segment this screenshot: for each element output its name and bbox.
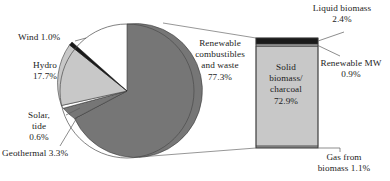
bar-segment-renewable-mw[interactable]	[256, 44, 318, 47]
renewable-energy-figure: Wind 1.0% Hydro 17.7% Solar, tide 0.6% G…	[0, 0, 390, 181]
label-gas-from-biomass: Gas from biomass 1.1%	[300, 152, 388, 174]
label-geothermal: Geothermal 3.3%	[2, 148, 114, 159]
label-hydro: Hydro 17.7%	[14, 60, 76, 82]
leader-liquid-biomass	[318, 32, 344, 41]
label-solid-biomass: Solid biomass/ charcoal 72.9%	[255, 62, 317, 107]
label-renewable-combustibles: Renewable combustibles and waste 77.3%	[186, 38, 254, 83]
label-renewable-mw: Renewable MW 0.9%	[312, 58, 390, 80]
label-liquid-biomass: Liquid biomass 2.4%	[296, 3, 388, 25]
bar-segment-liquid-biomass[interactable]	[256, 38, 318, 44]
explode-connector-top	[163, 23, 256, 38]
label-solar-tide: Solar, tide 0.6%	[8, 110, 70, 144]
pie-chart	[58, 23, 203, 158]
leader-renewable-mw	[318, 46, 340, 57]
label-wind: Wind 1.0%	[18, 32, 98, 43]
